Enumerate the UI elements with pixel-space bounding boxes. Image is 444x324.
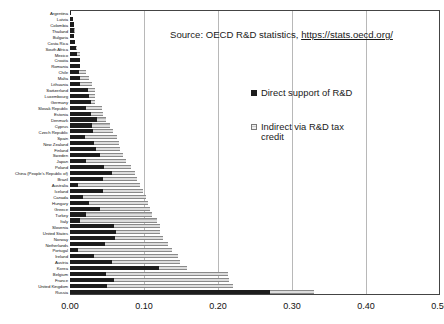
category-label: Finland bbox=[54, 147, 68, 152]
stacked-bar[interactable] bbox=[70, 195, 146, 199]
bar-segment-indirect bbox=[80, 82, 92, 86]
bar-segment-direct bbox=[70, 129, 93, 133]
stacked-bar[interactable] bbox=[70, 284, 233, 288]
stacked-bar[interactable] bbox=[70, 129, 113, 133]
bar-segment-indirect bbox=[97, 117, 107, 121]
category-label: Germany bbox=[51, 100, 68, 105]
stacked-bar[interactable] bbox=[70, 201, 148, 205]
category-label: Switzerland bbox=[46, 88, 68, 93]
stacked-bar[interactable] bbox=[70, 254, 178, 258]
stacked-bar[interactable] bbox=[70, 147, 120, 151]
stacked-bar[interactable] bbox=[70, 248, 172, 252]
category-label: South Africa bbox=[45, 46, 68, 51]
stacked-bar[interactable] bbox=[70, 135, 117, 139]
bar-segment-indirect bbox=[91, 112, 103, 116]
bar-segment-direct bbox=[70, 82, 80, 86]
stacked-bar[interactable] bbox=[70, 112, 103, 116]
category-label: Lithuania bbox=[51, 82, 68, 87]
bar-segment-indirect bbox=[107, 284, 233, 288]
stacked-bar[interactable] bbox=[70, 260, 180, 264]
stacked-bar[interactable] bbox=[70, 177, 137, 181]
bar-segment-direct bbox=[70, 100, 91, 104]
stacked-bar[interactable] bbox=[70, 183, 140, 187]
category-label: Mexico bbox=[55, 52, 68, 57]
stacked-bar[interactable] bbox=[70, 76, 89, 80]
bar-segment-direct bbox=[70, 177, 103, 181]
bar-segment-indirect bbox=[74, 28, 75, 32]
stacked-bar[interactable] bbox=[70, 46, 77, 50]
category-label: Romania bbox=[51, 64, 68, 69]
bar-segment-direct bbox=[70, 189, 103, 193]
legend-label-direct: Direct support of R&D bbox=[261, 88, 352, 99]
category-label: China (People's Republic of) bbox=[15, 171, 68, 176]
bar-segment-direct bbox=[70, 88, 88, 92]
stacked-bar[interactable] bbox=[70, 266, 187, 270]
bar-segment-direct bbox=[70, 22, 74, 26]
stacked-bar[interactable] bbox=[70, 52, 80, 56]
stacked-bar[interactable] bbox=[70, 40, 75, 44]
bar-segment-indirect bbox=[103, 189, 144, 193]
bar-segment-direct bbox=[70, 70, 79, 74]
stacked-bar[interactable] bbox=[70, 159, 126, 163]
stacked-bar[interactable] bbox=[70, 117, 106, 121]
stacked-bar[interactable] bbox=[70, 22, 74, 26]
bar-segment-indirect bbox=[93, 129, 113, 133]
stacked-bar[interactable] bbox=[70, 290, 314, 294]
legend-label-indirect: Indirect via R&D tax credit bbox=[261, 122, 365, 143]
category-label: Turkey bbox=[55, 212, 68, 217]
stacked-bar[interactable] bbox=[70, 165, 131, 169]
stacked-bar[interactable] bbox=[70, 88, 95, 92]
category-label: Thailand bbox=[52, 28, 68, 33]
stacked-bar[interactable] bbox=[70, 141, 119, 145]
bar-segment-indirect bbox=[105, 242, 168, 246]
stacked-bar[interactable] bbox=[70, 100, 95, 104]
stacked-bar[interactable] bbox=[70, 82, 92, 86]
stacked-bar[interactable] bbox=[70, 207, 150, 211]
bar-segment-indirect bbox=[115, 236, 163, 240]
category-label: Hungary bbox=[52, 200, 68, 205]
bar-segment-direct bbox=[70, 11, 71, 15]
stacked-bar[interactable] bbox=[70, 218, 157, 222]
legend-item-direct[interactable]: Direct support of R&D bbox=[251, 88, 371, 99]
category-label: Austria bbox=[55, 260, 68, 265]
source-url-link[interactable]: https://stats.oecd.org/ bbox=[301, 29, 393, 40]
stacked-bar[interactable] bbox=[70, 272, 228, 276]
stacked-bar[interactable] bbox=[70, 236, 163, 240]
bar-segment-direct bbox=[70, 76, 80, 80]
category-label: Italy bbox=[60, 218, 68, 223]
stacked-bar[interactable] bbox=[70, 171, 135, 175]
legend-item-indirect[interactable]: Indirect via R&D tax credit bbox=[251, 122, 371, 143]
stacked-bar[interactable] bbox=[70, 106, 102, 110]
category-label: Slovenia bbox=[52, 224, 68, 229]
bar-segment-indirect bbox=[106, 272, 228, 276]
x-axis-tick-label: 0.50 bbox=[431, 301, 444, 311]
stacked-bar[interactable] bbox=[70, 224, 160, 228]
bar-segment-direct bbox=[70, 52, 77, 56]
x-axis-tick-label: 0.20 bbox=[209, 301, 227, 311]
stacked-bar[interactable] bbox=[70, 189, 143, 193]
category-label: Bulgaria bbox=[53, 34, 68, 39]
stacked-bar[interactable] bbox=[70, 153, 123, 157]
stacked-bar[interactable] bbox=[70, 58, 80, 62]
category-label: Russia bbox=[55, 290, 68, 295]
stacked-bar[interactable] bbox=[70, 64, 80, 68]
stacked-bar[interactable] bbox=[70, 17, 73, 21]
bar-segment-direct bbox=[70, 212, 86, 216]
category-label: New Zealand bbox=[43, 141, 68, 146]
stacked-bar[interactable] bbox=[70, 28, 74, 32]
stacked-bar[interactable] bbox=[70, 11, 71, 15]
stacked-bar[interactable] bbox=[70, 94, 95, 98]
bar-row: Russia bbox=[0, 289, 444, 295]
category-label: France bbox=[55, 278, 68, 283]
stacked-bar[interactable] bbox=[70, 242, 168, 246]
x-axis: 0.000.100.200.300.400.50 bbox=[0, 296, 444, 324]
stacked-bar[interactable] bbox=[70, 278, 229, 282]
stacked-bar[interactable] bbox=[70, 212, 152, 216]
stacked-bar[interactable] bbox=[70, 123, 110, 127]
bar-segment-direct bbox=[70, 272, 106, 276]
stacked-bar[interactable] bbox=[70, 230, 160, 234]
category-label: United States bbox=[43, 230, 68, 235]
stacked-bar[interactable] bbox=[70, 70, 86, 74]
bar-segment-direct bbox=[70, 147, 96, 151]
stacked-bar[interactable] bbox=[70, 34, 74, 38]
